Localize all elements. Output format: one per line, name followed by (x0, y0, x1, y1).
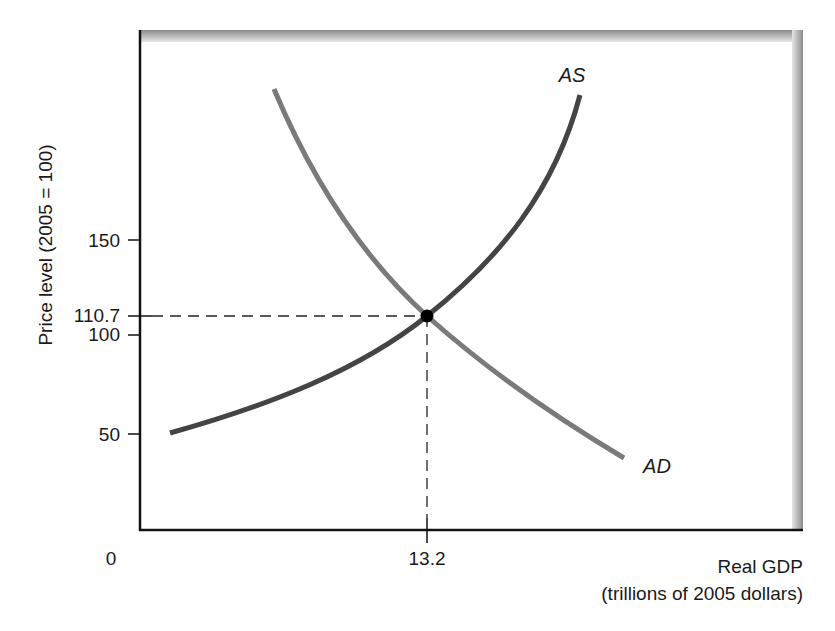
ad-curve (274, 89, 624, 458)
x-tick-label-13-2: 13.2 (409, 548, 446, 569)
y-tick-label-150: 150 (88, 230, 120, 251)
ad-label: AD (642, 455, 671, 477)
as-label: AS (558, 64, 586, 86)
x-axis-title-line2: (trillions of 2005 dollars) (601, 583, 803, 604)
frame-top-shade (140, 30, 803, 42)
y-tick-label-110-7: 110.7 (74, 305, 120, 326)
x-axis-title-line1: Real GDP (717, 556, 803, 577)
equilibrium-point (421, 310, 434, 323)
y-tick-label-50: 50 (99, 424, 120, 445)
y-axis-title: Price level (2005 = 100) (35, 144, 56, 345)
frame-right-shade (792, 30, 803, 530)
y-tick-label-100: 100 (88, 324, 120, 345)
as-ad-chart: AS AD 150 110.7 100 50 0 13.2 Price leve… (0, 0, 835, 631)
x-origin-label: 0 (106, 548, 117, 569)
